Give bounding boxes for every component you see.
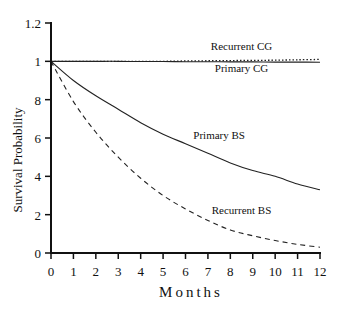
x-tick-label: 4 — [137, 264, 144, 279]
x-tick-label: 10 — [269, 264, 282, 279]
series-line-primary-cg — [51, 61, 320, 62]
x-tick-label: 3 — [115, 264, 122, 279]
x-tick-label: 11 — [291, 264, 304, 279]
y-tick-label: 1.2 — [25, 16, 41, 31]
x-tick-label: 5 — [160, 264, 167, 279]
x-tick-label: 12 — [314, 264, 327, 279]
y-tick-label: 2 — [35, 208, 42, 223]
x-tick-label: 9 — [250, 264, 257, 279]
survival-chart: 0246811.2 0123456789101112 Survival Prob… — [0, 0, 342, 327]
x-axis-title: Months — [159, 284, 223, 300]
x-tick-label: 8 — [227, 264, 234, 279]
series-line-recurrent-bs — [51, 61, 320, 247]
series-labels: Recurrent CGPrimary CGPrimary BSRecurren… — [193, 40, 272, 216]
y-tick-label: 4 — [35, 169, 42, 184]
x-ticks: 0123456789101112 — [48, 253, 327, 279]
x-tick-label: 7 — [205, 264, 212, 279]
x-tick-label: 6 — [182, 264, 189, 279]
y-tick-label: 1 — [35, 54, 42, 69]
x-tick-label: 2 — [93, 264, 100, 279]
y-tick-label: 8 — [35, 93, 42, 108]
y-axis-title: Survival Probability — [10, 107, 25, 213]
series-label-primary-cg: Primary CG — [215, 62, 269, 74]
plot-lines — [51, 59, 320, 247]
y-ticks: 0246811.2 — [25, 16, 51, 261]
series-label-recurrent-cg: Recurrent CG — [211, 40, 272, 52]
x-tick-label: 1 — [70, 264, 77, 279]
series-label-recurrent-bs: Recurrent BS — [212, 204, 272, 216]
y-tick-label: 0 — [35, 246, 42, 261]
axes: 0246811.2 0123456789101112 — [25, 16, 327, 279]
series-line-primary-bs — [51, 61, 320, 189]
y-tick-label: 6 — [35, 131, 42, 146]
x-tick-label: 0 — [48, 264, 55, 279]
series-label-primary-bs: Primary BS — [193, 129, 245, 141]
